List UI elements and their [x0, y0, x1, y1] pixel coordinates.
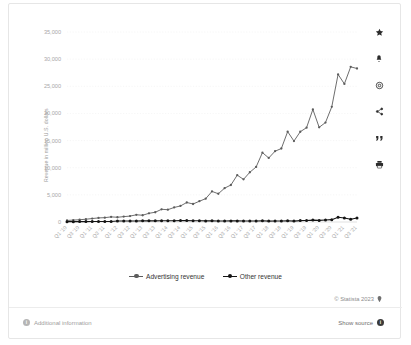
- data-point[interactable]: [255, 219, 258, 222]
- data-point[interactable]: [311, 219, 314, 222]
- data-point[interactable]: [280, 147, 282, 149]
- data-point[interactable]: [186, 201, 188, 203]
- data-point[interactable]: [274, 150, 276, 152]
- data-point[interactable]: [274, 219, 277, 222]
- data-point[interactable]: [85, 218, 87, 220]
- data-point[interactable]: [242, 219, 245, 222]
- print-icon[interactable]: [373, 159, 385, 171]
- data-point[interactable]: [356, 217, 359, 220]
- data-point[interactable]: [166, 219, 169, 222]
- data-point[interactable]: [330, 218, 333, 221]
- data-point[interactable]: [287, 131, 289, 133]
- data-point[interactable]: [229, 219, 232, 222]
- data-point[interactable]: [223, 187, 225, 189]
- data-point[interactable]: [97, 217, 99, 219]
- data-point[interactable]: [267, 220, 270, 223]
- data-point[interactable]: [122, 219, 125, 222]
- data-point[interactable]: [324, 219, 327, 222]
- data-point[interactable]: [103, 220, 106, 223]
- data-point[interactable]: [350, 66, 352, 68]
- data-point[interactable]: [185, 219, 188, 222]
- bell-icon[interactable]: [373, 53, 385, 65]
- data-point[interactable]: [198, 200, 200, 202]
- data-point[interactable]: [160, 219, 163, 222]
- data-point[interactable]: [292, 220, 295, 223]
- quote-icon[interactable]: [373, 132, 385, 144]
- data-point[interactable]: [91, 220, 94, 223]
- data-point[interactable]: [337, 216, 340, 219]
- data-point[interactable]: [318, 219, 321, 222]
- data-point[interactable]: [349, 218, 352, 221]
- data-point[interactable]: [223, 219, 226, 222]
- data-point[interactable]: [147, 219, 150, 222]
- data-point[interactable]: [236, 219, 239, 222]
- data-point[interactable]: [78, 220, 81, 223]
- legend-item-advertising-revenue[interactable]: Advertising revenue: [129, 272, 204, 280]
- data-point[interactable]: [211, 190, 213, 192]
- data-point[interactable]: [286, 219, 289, 222]
- data-point[interactable]: [217, 220, 220, 223]
- data-point[interactable]: [173, 206, 175, 208]
- data-point[interactable]: [66, 220, 69, 223]
- data-point[interactable]: [123, 215, 125, 217]
- data-point[interactable]: [97, 220, 100, 223]
- data-point[interactable]: [211, 219, 214, 222]
- data-point[interactable]: [110, 216, 112, 218]
- data-point[interactable]: [343, 217, 346, 220]
- data-point[interactable]: [142, 214, 144, 216]
- data-point[interactable]: [154, 219, 157, 222]
- data-point[interactable]: [356, 67, 358, 69]
- data-point[interactable]: [135, 214, 137, 216]
- data-point[interactable]: [230, 184, 232, 186]
- data-point[interactable]: [293, 140, 295, 142]
- data-point[interactable]: [129, 220, 132, 223]
- gear-icon[interactable]: [373, 79, 385, 91]
- data-point[interactable]: [331, 106, 333, 108]
- data-point[interactable]: [312, 108, 314, 110]
- data-point[interactable]: [343, 83, 345, 85]
- data-point[interactable]: [135, 220, 138, 223]
- data-point[interactable]: [299, 131, 301, 133]
- data-point[interactable]: [249, 171, 251, 173]
- data-point[interactable]: [148, 212, 150, 214]
- data-point[interactable]: [141, 219, 144, 222]
- data-point[interactable]: [305, 219, 308, 222]
- show-source-button[interactable]: Show source i: [338, 319, 384, 326]
- data-point[interactable]: [72, 220, 75, 223]
- data-point[interactable]: [204, 219, 207, 222]
- data-point[interactable]: [198, 219, 201, 222]
- star-icon[interactable]: [373, 26, 385, 38]
- data-point[interactable]: [116, 216, 118, 218]
- data-point[interactable]: [268, 157, 270, 159]
- data-point[interactable]: [305, 126, 307, 128]
- data-point[interactable]: [110, 220, 113, 223]
- data-point[interactable]: [84, 220, 87, 223]
- data-point[interactable]: [192, 203, 194, 205]
- data-point[interactable]: [280, 220, 283, 223]
- data-point[interactable]: [242, 178, 244, 180]
- data-point[interactable]: [337, 73, 339, 75]
- data-point[interactable]: [236, 174, 238, 176]
- data-point[interactable]: [318, 126, 320, 128]
- data-point[interactable]: [173, 219, 176, 222]
- data-point[interactable]: [192, 219, 195, 222]
- legend-item-other-revenue[interactable]: Other revenue: [223, 272, 282, 280]
- share-icon[interactable]: [373, 106, 385, 118]
- data-point[interactable]: [255, 166, 257, 168]
- data-point[interactable]: [116, 219, 119, 222]
- data-point[interactable]: [261, 151, 263, 153]
- data-point[interactable]: [324, 121, 326, 123]
- data-point[interactable]: [205, 198, 207, 200]
- data-point[interactable]: [179, 219, 182, 222]
- data-point[interactable]: [261, 219, 264, 222]
- data-point[interactable]: [179, 205, 181, 207]
- data-point[interactable]: [217, 193, 219, 195]
- data-point[interactable]: [154, 211, 156, 213]
- data-point[interactable]: [299, 219, 302, 222]
- data-point[interactable]: [129, 215, 131, 217]
- data-point[interactable]: [91, 217, 93, 219]
- data-point[interactable]: [160, 208, 162, 210]
- data-point[interactable]: [104, 217, 106, 219]
- data-point[interactable]: [167, 209, 169, 211]
- additional-information-button[interactable]: i Additional information: [23, 319, 92, 326]
